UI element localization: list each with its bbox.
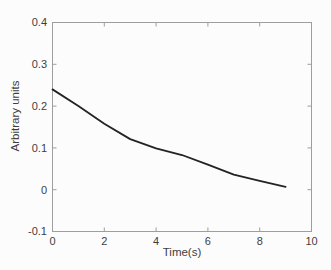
x-tick-label: 0 [49,235,55,247]
plot-area: 0246810-0.100.10.20.30.4 [0,0,331,270]
line-chart-figure: 0246810-0.100.10.20.30.4 Time(s) Arbitra… [0,0,331,270]
axes-box [53,23,312,232]
x-tick-label: 6 [205,235,211,247]
y-tick-label: 0.2 [32,100,47,112]
y-tick-label: 0 [41,184,47,196]
y-tick-label: 0.3 [32,58,47,70]
x-axis-label: Time(s) [163,247,202,259]
y-axis-label: Arbitrary units [10,81,22,152]
x-tick-label: 8 [257,235,263,247]
y-tick-label: 0.1 [32,142,47,154]
x-tick-label: 10 [305,235,317,247]
x-tick-label: 4 [153,235,159,247]
x-tick-label: 2 [101,235,107,247]
y-tick-label: -0.1 [28,225,47,237]
data-curve [53,89,286,186]
y-tick-label: 0.4 [32,16,47,28]
